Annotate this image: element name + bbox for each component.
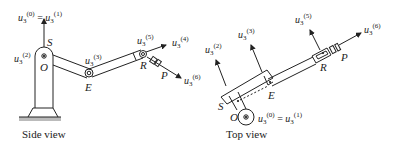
vector-u5-top: u3(5) — [295, 13, 312, 27]
vector-u6-side: u3(6) — [184, 74, 201, 88]
point-p-side: P — [161, 70, 168, 81]
caption-side-view: Side view — [22, 128, 66, 140]
point-o-top: O — [230, 112, 238, 123]
vector-u0-eq-u1-side: u3(0) = u3(1) — [18, 11, 62, 25]
point-s-side: S — [47, 37, 53, 48]
vector-u5-side: u3(5) — [137, 34, 154, 48]
ground-hatch — [19, 117, 61, 121]
vector-u3-side: u3(3) — [85, 54, 102, 68]
caption-top-view: Top view — [226, 128, 267, 140]
point-r-top: R — [320, 62, 327, 73]
point-s-top: S — [218, 101, 224, 112]
point-r-side: R — [140, 60, 147, 71]
point-o-side: O — [40, 62, 48, 73]
point-e-side: E — [85, 82, 92, 93]
point-p-top: P — [341, 52, 348, 63]
robot-arm-diagram: u3(0) = u3(1) S u3(2) O u3(3) E u3(5) u3… — [0, 0, 393, 148]
vector-u2-side: u3(2) — [14, 52, 31, 66]
vector-u4-side: u3(4) — [172, 36, 189, 50]
point-e-top: E — [268, 90, 275, 101]
vector-u3-top: u3(3) — [238, 28, 255, 42]
vector-u6-top: u3(6) — [364, 23, 381, 37]
vector-u0-eq-u1-top: u3(0) = u3(1) — [258, 112, 302, 126]
vector-u2-top: u3(2) — [205, 43, 222, 57]
